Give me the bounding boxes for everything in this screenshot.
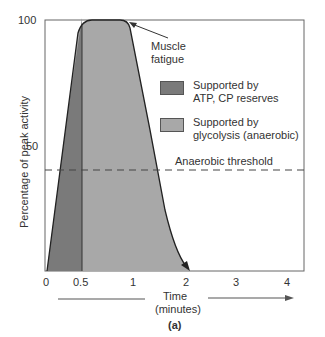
time-arrow-head-icon: [285, 295, 294, 301]
x-tick-3: 3: [233, 276, 239, 288]
legend-atp-line2: ATP, CP reserves: [193, 92, 279, 105]
legend-label-glycolysis: Supported by glycolysis (anaerobic): [193, 116, 299, 142]
y-tick-100: 100: [18, 14, 36, 26]
x-tick-1: 1: [130, 276, 136, 288]
x-tick-2: 2: [183, 276, 189, 288]
muscle-fatigue-line1: Muscle: [151, 40, 186, 53]
anaerobic-threshold-label: Anaerobic threshold: [175, 155, 273, 168]
legend-gly-line1: Supported by: [193, 116, 299, 129]
muscle-fatigue-annotation: Muscle fatigue: [151, 40, 186, 66]
legend-swatch-atp-cp: [160, 81, 184, 95]
legend-atp-line1: Supported by: [193, 79, 279, 92]
x-tick-0-5: 0.5: [73, 276, 88, 288]
panel-label: (a): [168, 319, 181, 331]
legend-gly-line2: glycolysis (anaerobic): [193, 129, 299, 142]
legend-swatch-glycolysis: [160, 118, 184, 132]
fatigue-pointer-line: [132, 24, 168, 38]
y-axis-title: Percentage of peak activity: [18, 96, 30, 228]
legend-label-atp-cp: Supported by ATP, CP reserves: [193, 79, 279, 105]
x-tick-0: 0: [43, 276, 49, 288]
x-axis-title: Time: [163, 290, 187, 302]
muscle-fatigue-line2: fatigue: [151, 53, 186, 66]
x-tick-4: 4: [284, 276, 290, 288]
x-axis-unit: (minutes): [155, 303, 201, 315]
